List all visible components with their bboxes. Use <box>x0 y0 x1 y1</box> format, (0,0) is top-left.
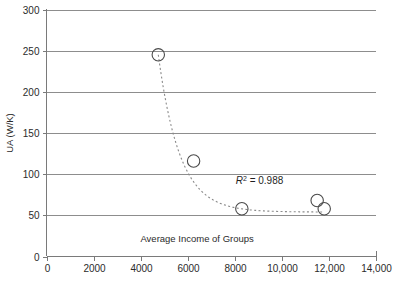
r-value: = 0.988 <box>247 175 284 186</box>
x-tick-label-0: 0 <box>45 263 51 274</box>
y-tick-label-300: 300 <box>23 5 40 16</box>
x-tick-label-4000: 4000 <box>130 263 153 274</box>
r-squared-annotation: R2 = 0.988 <box>236 175 284 187</box>
x-tick-label-8000: 8000 <box>224 263 247 274</box>
y-tick-label-0: 0 <box>34 252 40 263</box>
y-axis-title: UA (W/K) <box>4 113 15 153</box>
y-tick-label-100: 100 <box>23 169 40 180</box>
x-tick-label-10000: 10,000 <box>267 263 298 274</box>
x-tick-label-14000: 14,000 <box>361 263 392 274</box>
x-axis-title: Average Income of Groups <box>140 233 254 244</box>
y-tick-label-150: 150 <box>23 128 40 139</box>
x-tick-label-2000: 2000 <box>83 263 106 274</box>
chart-container: 050100150200250300 0200040006000800010,0… <box>0 0 405 286</box>
y-tick-label-250: 250 <box>23 46 40 57</box>
y-tick-label-200: 200 <box>23 87 40 98</box>
x-tick-label-12000: 12,000 <box>314 263 345 274</box>
r-symbol: R <box>236 175 243 186</box>
scatter-plot: 050100150200250300 0200040006000800010,0… <box>0 0 405 286</box>
y-tick-label-50: 50 <box>28 210 40 221</box>
x-tick-label-6000: 6000 <box>177 263 200 274</box>
